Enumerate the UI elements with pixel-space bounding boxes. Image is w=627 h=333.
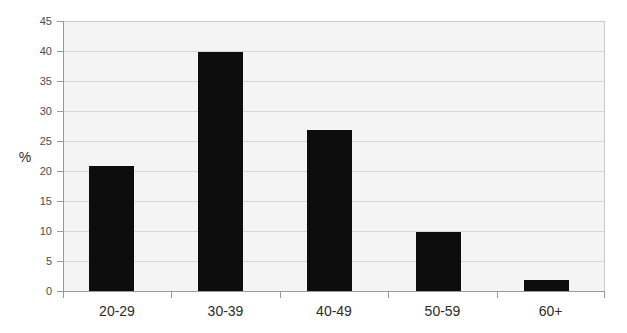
y-tick-label: 35: [12, 76, 52, 87]
y-axis-title: %: [14, 150, 36, 164]
x-tick-label-40-49: 40-49: [280, 304, 388, 318]
y-tick: [57, 111, 63, 112]
x-tick: [497, 291, 498, 298]
x-tick-label-60plus: 60+: [497, 304, 604, 318]
bar-20-29: [89, 166, 134, 292]
bar-chart: 0 5 10 15 20 25 30 35 40 45 20-29 30-39 …: [0, 0, 627, 333]
y-tick-label: 20: [12, 166, 52, 177]
y-tick-label: 45: [12, 16, 52, 27]
y-tick-label: 25: [12, 136, 52, 147]
y-tick-label: 40: [12, 46, 52, 57]
y-tick: [57, 81, 63, 82]
y-tick: [57, 171, 63, 172]
y-tick-label: 15: [12, 196, 52, 207]
x-tick: [280, 291, 281, 298]
x-tick: [63, 291, 64, 298]
y-tick: [57, 261, 63, 262]
x-tick-label-20-29: 20-29: [63, 304, 171, 318]
y-tick: [57, 201, 63, 202]
y-tick-label: 30: [12, 106, 52, 117]
y-tick: [57, 231, 63, 232]
y-tick: [57, 21, 63, 22]
x-tick-label-50-59: 50-59: [388, 304, 497, 318]
y-tick: [57, 141, 63, 142]
plot-area: [63, 21, 605, 292]
bar-30-39: [198, 52, 243, 292]
y-tick: [57, 51, 63, 52]
x-axis-line: [63, 291, 605, 292]
x-tick-label-30-39: 30-39: [171, 304, 280, 318]
y-tick-label: 10: [12, 226, 52, 237]
gridline: [63, 81, 604, 82]
y-tick-label: 0: [12, 286, 52, 297]
bar-50-59: [416, 232, 461, 292]
y-tick-label: 5: [12, 256, 52, 267]
gridline: [63, 51, 604, 52]
x-tick: [171, 291, 172, 298]
gridline: [63, 111, 604, 112]
x-tick: [388, 291, 389, 298]
bar-40-49: [307, 130, 352, 292]
y-axis-line: [63, 21, 64, 292]
x-tick: [604, 291, 605, 298]
